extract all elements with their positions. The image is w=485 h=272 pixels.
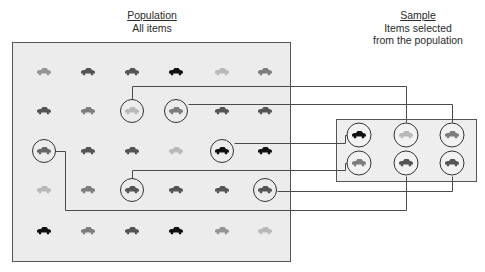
population-box — [13, 43, 291, 262]
population-frame — [13, 43, 291, 262]
population-sample-diagram — [0, 0, 485, 272]
